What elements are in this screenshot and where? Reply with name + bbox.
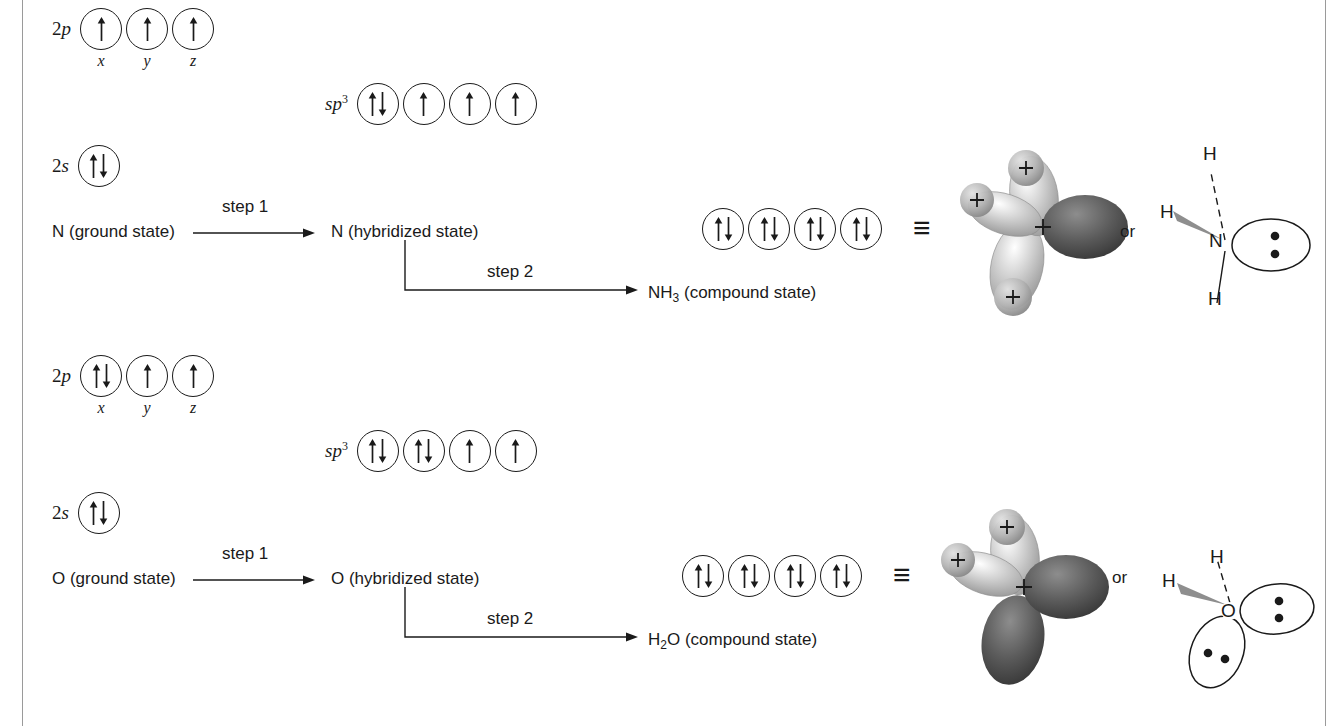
arrows-pair — [786, 556, 805, 596]
nitrogen-lewis-h-top: H — [1203, 143, 1217, 165]
nitrogen-2p-sublabel-y: y — [143, 52, 150, 70]
orbital-cell — [355, 430, 401, 472]
nitrogen-2py-orbital — [126, 8, 168, 50]
nitrogen-2p-sublabel-x: x — [97, 52, 104, 70]
nitrogen-step1-arrow — [193, 222, 323, 244]
orbital-cell — [447, 430, 493, 472]
arrows-up — [189, 9, 198, 49]
nitrogen-hybridized-state-label: N (hybridized state) — [331, 222, 478, 242]
orbital-cell — [726, 555, 772, 597]
arrows-up — [465, 431, 474, 471]
arrows-up — [97, 9, 106, 49]
orbital-cell — [447, 83, 493, 125]
orbital-cell — [493, 83, 539, 125]
oxygen-compound-row — [680, 555, 864, 597]
orbital-cell — [772, 555, 818, 597]
orbital-cell — [493, 430, 539, 472]
orbital-cell — [355, 83, 401, 125]
orbital-cell: y — [124, 8, 170, 70]
nitrogen-sp3-row: sp3 — [325, 83, 539, 125]
arrows-up — [511, 84, 520, 124]
orbital-cell — [76, 492, 122, 534]
arrows-pair — [368, 431, 387, 471]
nitrogen-equivalence-symbol: ≡ — [913, 213, 931, 243]
oxygen-step1-label: step 1 — [222, 544, 268, 564]
arrows-pair — [414, 431, 433, 471]
arrows-pair — [368, 84, 387, 124]
arrows-up — [419, 84, 428, 124]
arrows-pair — [92, 356, 111, 396]
oxygen-2s-row: 2s — [52, 492, 122, 534]
arrows-up — [143, 9, 152, 49]
orbital-cell: x — [78, 8, 124, 70]
nitrogen-sp3-orbital-4 — [495, 83, 537, 125]
oxygen-compound-orbital-3 — [774, 555, 816, 597]
nitrogen-lewis-structure: N — [1165, 135, 1325, 315]
arrows-pair — [89, 146, 108, 186]
nitrogen-orbital-model — [955, 140, 1185, 320]
orbital-cell — [818, 555, 864, 597]
oxygen-2s-label: 2s — [52, 492, 69, 534]
nitrogen-sp3-orbital-2 — [403, 83, 445, 125]
oxygen-sp3-label: sp3 — [325, 430, 348, 472]
nitrogen-sp3-label: sp3 — [325, 83, 348, 125]
page-border-left — [22, 0, 23, 726]
nitrogen-center-atom-label: N — [1209, 230, 1223, 252]
oxygen-2s-orbital — [78, 492, 120, 534]
nitrogen-compound-orbital-3 — [794, 208, 836, 250]
nitrogen-lewis-h-left: H — [1160, 201, 1174, 223]
orbital-cell — [792, 208, 838, 250]
orbital-cell — [838, 208, 884, 250]
oxygen-compound-orbital-1 — [682, 555, 724, 597]
arrows-pair — [832, 556, 851, 596]
oxygen-compound-orbital-2 — [728, 555, 770, 597]
orbital-cell: x — [78, 355, 124, 417]
arrows-pair — [806, 209, 825, 249]
nitrogen-step1-label: step 1 — [222, 197, 268, 217]
orbital-cell — [680, 555, 726, 597]
oxygen-step2-arrow — [404, 587, 654, 649]
oxygen-2p-sublabel-x: x — [97, 399, 104, 417]
nitrogen-2pz-orbital — [172, 8, 214, 50]
oxygen-ground-state-label: O (ground state) — [52, 569, 176, 589]
nitrogen-2p-label: 2p — [52, 8, 71, 50]
oxygen-step1-arrow — [193, 569, 323, 591]
arrows-pair — [694, 556, 713, 596]
oxygen-2p-sublabel-z: z — [190, 399, 196, 417]
oxygen-sp3-orbital-4 — [495, 430, 537, 472]
nitrogen-compound-state-label: NH3 (compound state) — [648, 283, 816, 303]
nitrogen-2s-orbital — [78, 145, 120, 187]
oxygen-hybridized-state-label: O (hybridized state) — [331, 569, 479, 589]
oxygen-sp3-orbital-1 — [357, 430, 399, 472]
orbital-cell — [401, 83, 447, 125]
arrows-pair — [740, 556, 759, 596]
nitrogen-compound-orbital-2 — [748, 208, 790, 250]
arrows-up — [465, 84, 474, 124]
nitrogen-sp3-orbital-1 — [357, 83, 399, 125]
oxygen-center-atom-label: O — [1221, 600, 1236, 622]
nitrogen-2px-orbital — [80, 8, 122, 50]
nitrogen-2p-sublabel-z: z — [190, 52, 196, 70]
page-border-right — [1325, 0, 1326, 726]
arrows-pair — [852, 209, 871, 249]
oxygen-2p-row: 2p x y z — [52, 355, 216, 417]
nitrogen-2s-label: 2s — [52, 145, 69, 187]
oxygen-sp3-orbital-3 — [449, 430, 491, 472]
orbital-cell: z — [170, 8, 216, 70]
oxygen-sp3-orbital-2 — [403, 430, 445, 472]
oxygen-lewis-structure — [1155, 515, 1325, 700]
figure-canvas: 2p x y z sp3 — [0, 0, 1343, 726]
orbital-cell — [746, 208, 792, 250]
arrows-pair — [760, 209, 779, 249]
orbital-cell — [76, 145, 122, 187]
oxygen-2px-orbital — [80, 355, 122, 397]
orbital-cell: y — [124, 355, 170, 417]
arrows-up — [511, 431, 520, 471]
oxygen-sp3-row: sp3 — [325, 430, 539, 472]
oxygen-equivalence-symbol: ≡ — [893, 560, 911, 590]
arrows-up — [189, 356, 198, 396]
arrows-up — [143, 356, 152, 396]
oxygen-2py-orbital — [126, 355, 168, 397]
oxygen-lewis-h-top: H — [1210, 546, 1224, 568]
oxygen-2p-sublabel-y: y — [143, 399, 150, 417]
